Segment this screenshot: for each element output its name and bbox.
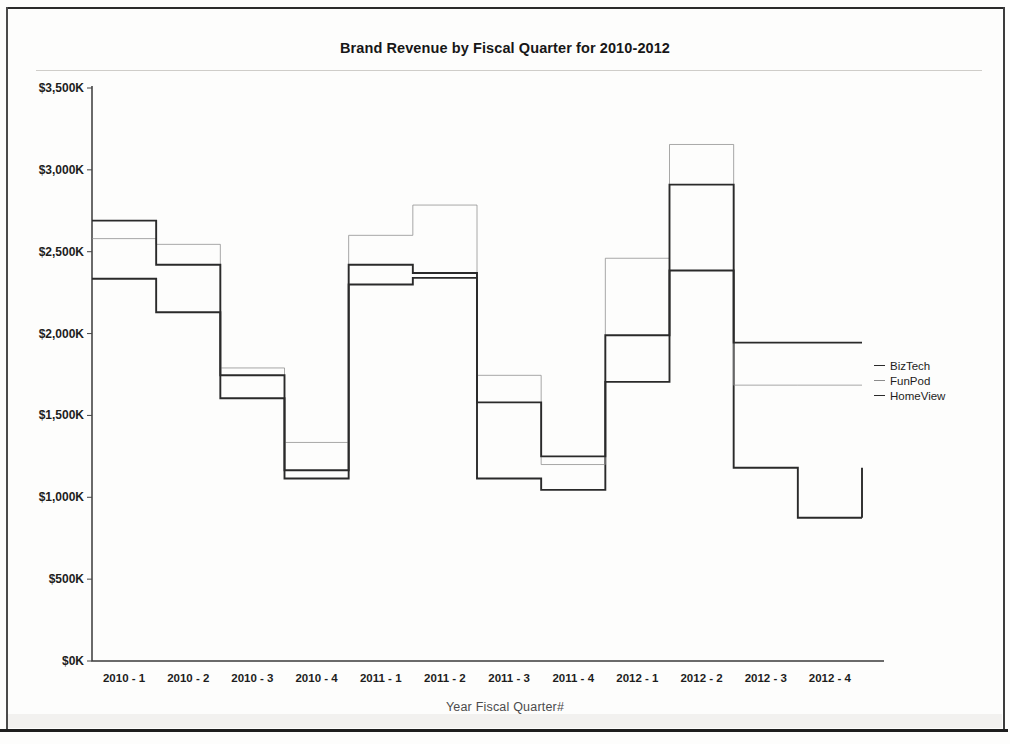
- x-axis-tick-label: 2011 - 1: [360, 672, 402, 684]
- y-axis-tick-label: $2,500K: [22, 245, 84, 259]
- x-axis-tick-label: 2010 - 4: [295, 672, 337, 684]
- y-axis-tick-label: $0K: [22, 654, 84, 668]
- y-axis-tick-label: $3,500K: [22, 81, 84, 95]
- legend-label: HomeView: [890, 390, 945, 402]
- chart-container: Brand Revenue by Fiscal Quarter for 2010…: [0, 0, 1010, 744]
- x-axis-tick-label: 2012 - 2: [680, 672, 722, 684]
- x-axis-tick-label: 2010 - 1: [103, 672, 145, 684]
- legend-item[interactable]: BizTech: [874, 358, 945, 373]
- x-axis-tick-label: 2011 - 2: [424, 672, 466, 684]
- y-axis-tick-label: $1,000K: [22, 490, 84, 504]
- plot-svg: [0, 0, 1010, 744]
- legend-item[interactable]: HomeView: [874, 388, 945, 403]
- legend-line-icon: [874, 395, 885, 396]
- series-layer: [92, 144, 862, 517]
- legend-line-icon: [874, 380, 885, 381]
- chart-legend: BizTechFunPodHomeView: [874, 358, 945, 403]
- x-axis-tick-label: 2012 - 3: [745, 672, 787, 684]
- y-axis-tick-label: $3,000K: [22, 163, 84, 177]
- x-axis-tick-label: 2011 - 3: [488, 672, 530, 684]
- y-axis-tick-label: $2,000K: [22, 327, 84, 341]
- x-axis-tick-label: 2010 - 2: [167, 672, 209, 684]
- x-axis-tick-label: 2012 - 1: [616, 672, 658, 684]
- x-axis-tick-label: 2011 - 4: [552, 672, 594, 684]
- legend-item[interactable]: FunPod: [874, 373, 945, 388]
- axis-lines: [92, 86, 884, 661]
- x-axis-tick-label: 2012 - 4: [809, 672, 851, 684]
- legend-line-icon: [874, 365, 885, 366]
- legend-label: FunPod: [890, 375, 930, 387]
- legend-label: BizTech: [890, 360, 930, 372]
- x-axis-title: Year Fiscal Quarter#: [0, 700, 1010, 714]
- y-axis-tick-label: $1,500K: [22, 408, 84, 422]
- axes-layer: [87, 86, 884, 661]
- x-axis-tick-label: 2010 - 3: [231, 672, 273, 684]
- plot-area: $0K$500K$1,000K$1,500K$2,000K$2,500K$3,0…: [0, 0, 1010, 744]
- y-axis-tick-label: $500K: [22, 572, 84, 586]
